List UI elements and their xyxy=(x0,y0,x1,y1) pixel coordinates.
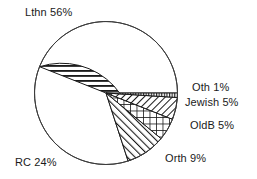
pie-label-lthn: Lthn 56% xyxy=(25,6,72,18)
pie-label-orth: Orth 9% xyxy=(165,152,206,164)
pie-label-rc: RC 24% xyxy=(15,156,57,168)
pie-chart-figure: Lthn 56% Oth 1% Jewish 5% OldB 5% Orth 9… xyxy=(0,0,257,179)
pie-label-oldb: OldB 5% xyxy=(190,119,234,131)
pie-label-oth: Oth 1% xyxy=(192,81,229,93)
pie-label-jewish: Jewish 5% xyxy=(185,96,238,108)
